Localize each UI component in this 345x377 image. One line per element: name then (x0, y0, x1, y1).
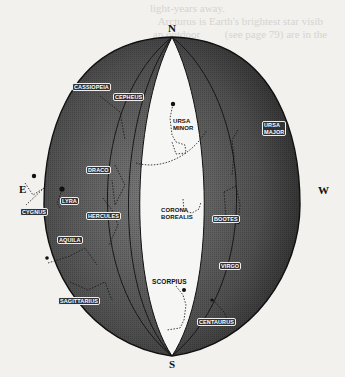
label-aquila: Aquila (57, 236, 83, 244)
label-scorpius: Scorpius (151, 279, 188, 286)
label-ursa-major: Ursa Major (262, 121, 286, 136)
label-sagittarius: Sagittarius (58, 297, 100, 305)
label-virgo: Virgo (219, 262, 241, 270)
north-label: N (168, 22, 176, 34)
label-bootes: Bootes (212, 215, 240, 223)
south-label: S (169, 358, 175, 370)
label-draco: Draco (86, 166, 111, 174)
label-cepheus: Cepheus (113, 93, 144, 101)
celestial-sphere-diagram (0, 0, 345, 377)
label-ursa-minor: Ursa Minor (172, 118, 195, 131)
label-cassiopeia: Cassiopeia (72, 83, 111, 91)
label-corona-borealis: Corona Borealis (160, 207, 194, 220)
label-centaurus: Centaurus (197, 318, 236, 326)
east-label: E (19, 183, 26, 195)
label-cygnus: Cygnus (20, 208, 48, 216)
west-label: W (318, 184, 329, 196)
label-lyra: Lyra (60, 197, 79, 205)
label-hercules: Hercules (86, 212, 121, 220)
